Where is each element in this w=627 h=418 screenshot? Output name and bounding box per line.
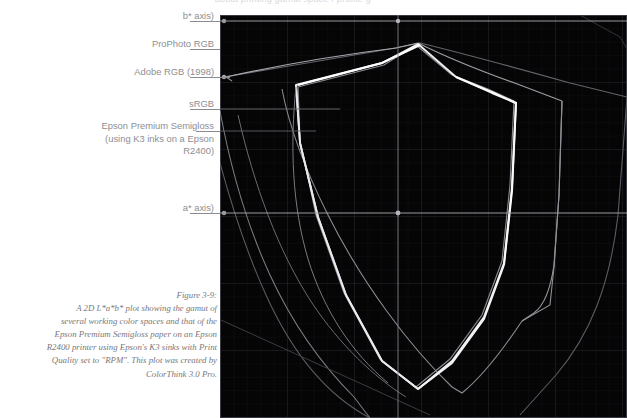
figure-caption-title: Figure 3-9: <box>9 289 217 302</box>
leader-adobe-rgb <box>190 77 230 78</box>
figure-caption-line-3: Epson Premium Semigloss paper on an Epso… <box>9 328 217 341</box>
b-axis-top-node <box>396 19 400 23</box>
callout-epson-line-2: (using K3 inks on a Epson <box>29 133 214 146</box>
callout-epson-line-3: R2400) <box>29 145 214 158</box>
leader-srgb <box>190 109 220 110</box>
figure-caption-line-1: A 2D L*a*b* plot showing the gamut of <box>9 302 217 315</box>
lab-gamut-plot <box>220 15 627 418</box>
figure-caption-line-4: R2400 printer using Epson's K3 sinks wit… <box>9 341 217 354</box>
a-axis-origin-marker <box>222 211 227 216</box>
plot-svg <box>220 15 627 418</box>
figure-caption-line-2: several working color spaces and that of… <box>9 315 217 328</box>
leader-prophoto-rgb <box>190 49 220 50</box>
callout-b-axis-label: b* axis) <box>183 10 214 21</box>
b-axis-marker <box>222 19 226 23</box>
callout-a-axis-label: a* axis) <box>183 202 214 213</box>
callout-prophoto-rgb-label: ProPhoto RGB <box>152 38 214 49</box>
callout-srgb-label: sRGB <box>189 98 214 109</box>
leader-b-axis <box>190 21 220 22</box>
figure-page: about printing gamut space r profile g <box>0 0 627 418</box>
leader-a-axis <box>190 213 220 214</box>
cut-off-text-sliver: about printing gamut space r profile g <box>215 0 627 6</box>
figure-caption-line-5: Quality set to "RPM". This plot was crea… <box>9 354 217 367</box>
callout-epson-line-1: Epson Premium Semigloss <box>29 120 214 133</box>
leader-epson-premium-semigloss <box>196 131 220 132</box>
origin-node <box>396 211 401 216</box>
figure-caption-line-6: ColorThink 3.0 Pro. <box>9 368 217 381</box>
callout-epson-premium-semigloss: Epson Premium Semigloss (using K3 inks o… <box>29 120 214 158</box>
callout-adobe-rgb-label: Adobe RGB (1998) <box>134 66 214 77</box>
figure-caption: Figure 3-9: A 2D L*a*b* plot showing the… <box>9 289 217 381</box>
